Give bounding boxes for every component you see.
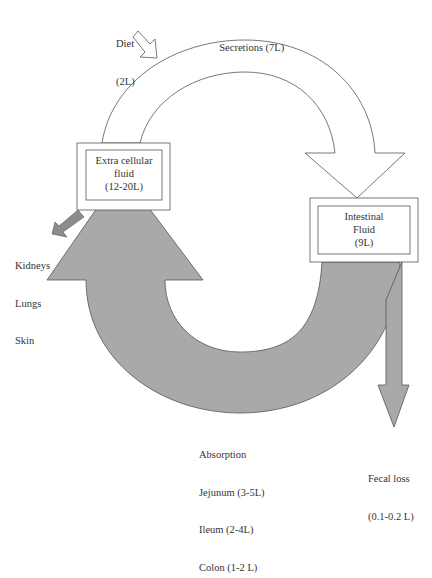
secretions-label: Secretions (7L) <box>214 29 284 54</box>
insensible-loss-label: Kidneys Lungs Skin <box>15 235 50 360</box>
diet-arrow <box>133 31 157 58</box>
absorption-label: Absorption Jejunum (3-5L) Ileum (2-4L) C… <box>199 424 265 578</box>
fecal-loss-label: Fecal loss (0.1-0.2 L) <box>368 448 414 536</box>
diet-label: Diet (2L) <box>116 13 135 101</box>
intestinal-label: Intestinal Fluid (9L) <box>318 210 410 249</box>
extracellular-label: Extra cellular fluid (12-20L) <box>86 154 162 193</box>
